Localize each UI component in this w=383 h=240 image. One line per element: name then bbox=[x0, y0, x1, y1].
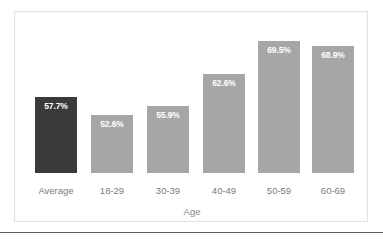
bar-value-label: 52.6% bbox=[91, 119, 133, 129]
bar-group-40-49: 62.6% 40-49 bbox=[203, 12, 245, 223]
bar-18-29[interactable]: 52.6% bbox=[91, 115, 133, 173]
bar-group-30-39: 55.9% 30-39 bbox=[147, 12, 189, 223]
bottom-divider bbox=[0, 232, 383, 233]
bar-50-59[interactable]: 69.5% bbox=[258, 41, 300, 173]
chart-frame: 57.7% Average 52.6% 18-29 55.9% 30-39 62… bbox=[14, 11, 368, 222]
category-label-60-69: 60-69 bbox=[304, 185, 362, 196]
bar-30-39[interactable]: 55.9% bbox=[147, 106, 189, 173]
bar-value-label: 62.6% bbox=[203, 78, 245, 88]
category-label-30-39: 30-39 bbox=[139, 185, 197, 196]
category-label-average: Average bbox=[27, 185, 85, 196]
category-label-40-49: 40-49 bbox=[195, 185, 253, 196]
bar-group-50-59: 69.5% 50-59 bbox=[258, 12, 300, 223]
plot-area: 57.7% Average 52.6% 18-29 55.9% 30-39 62… bbox=[15, 12, 369, 223]
category-label-50-59: 50-59 bbox=[250, 185, 308, 196]
category-label-18-29: 18-29 bbox=[83, 185, 141, 196]
bar-group-60-69: 68.9% 60-69 bbox=[312, 12, 354, 223]
x-axis-title: Age bbox=[15, 206, 369, 217]
bar-value-label: 69.5% bbox=[258, 45, 300, 55]
bar-value-label: 57.7% bbox=[35, 101, 77, 111]
bar-group-18-29: 52.6% 18-29 bbox=[91, 12, 133, 223]
bar-group-average: 57.7% Average bbox=[35, 12, 77, 223]
bar-60-69[interactable]: 68.9% bbox=[312, 46, 354, 173]
bar-value-label: 68.9% bbox=[312, 50, 354, 60]
bar-average[interactable]: 57.7% bbox=[35, 97, 77, 173]
bar-40-49[interactable]: 62.6% bbox=[203, 74, 245, 173]
bar-value-label: 55.9% bbox=[147, 110, 189, 120]
